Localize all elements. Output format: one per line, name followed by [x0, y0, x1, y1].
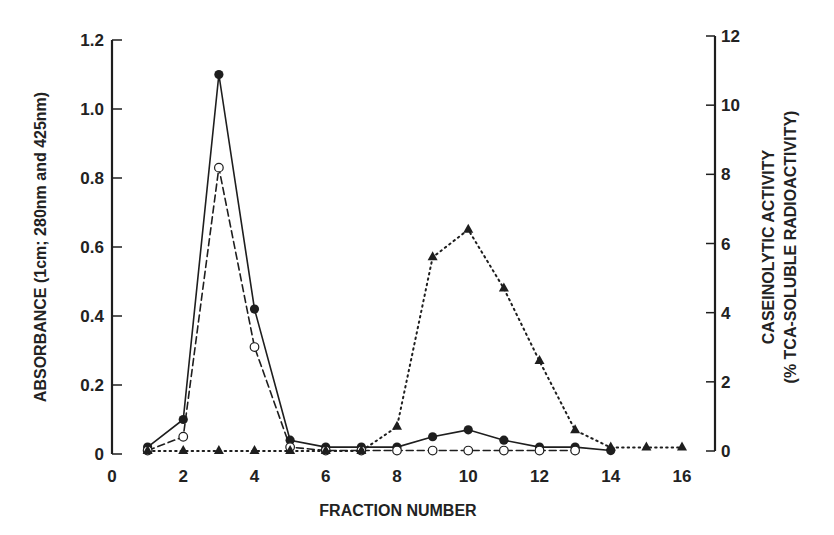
x-axis-tick-label: 12: [530, 467, 549, 486]
left-axis-tick-label: 0.4: [80, 307, 104, 326]
right-axis-tick-label: 12: [721, 27, 740, 46]
x-axis-tick-label: 16: [673, 467, 692, 486]
left-axis-tick-label: 1.2: [80, 31, 104, 50]
open-circle-marker: [535, 446, 544, 455]
filled-triangle-marker: [250, 445, 260, 454]
left-axis-tick-label: 1.0: [80, 100, 104, 119]
open-circle-marker: [250, 343, 259, 352]
filled-triangle-marker: [392, 421, 402, 430]
right-axis-tick-label: 8: [721, 165, 730, 184]
filled-circle-marker: [464, 425, 473, 434]
open-circle-marker: [215, 163, 224, 172]
right-axis-tick-label: 2: [721, 373, 730, 392]
x-axis-tick-label: 4: [250, 467, 260, 486]
filled-triangle-marker: [428, 251, 438, 260]
series-line: [148, 168, 576, 451]
left-axis-tick-label: 0.2: [80, 376, 104, 395]
open-circle-marker: [571, 446, 580, 455]
x-axis-title: FRACTION NUMBER: [319, 502, 477, 519]
x-axis-tick-label: 0: [107, 467, 116, 486]
axes: 00.20.40.60.81.01.2024681012024681012141…: [80, 27, 740, 486]
y-axis-title: ABSORBANCE (1cm; 280nm and 425nm): [32, 92, 49, 402]
right-axis-tick-label: 10: [721, 96, 740, 115]
x-axis-tick-label: 2: [179, 467, 188, 486]
filled-triangle-marker: [499, 282, 509, 291]
open-circle-marker: [464, 446, 473, 455]
open-circle-marker: [500, 446, 509, 455]
left-axis-tick-label: 0.6: [80, 238, 104, 257]
series-line: [148, 230, 682, 451]
chart-canvas: 00.20.40.60.81.01.2024681012024681012141…: [0, 0, 834, 535]
filled-circle-marker: [428, 432, 437, 441]
x-axis-tick-label: 14: [601, 467, 620, 486]
y2-axis-title-line2: (% TCA-SOLUBLE RADIOACTIVITY): [782, 111, 799, 384]
y2-axis-title-line1: CASEINOLYTIC ACTIVITY: [760, 149, 777, 344]
left-axis-tick-label: 0.8: [80, 169, 104, 188]
filled-triangle-marker: [535, 355, 545, 364]
open-circle-marker: [428, 446, 437, 455]
filled-triangle-marker: [463, 224, 473, 233]
left-axis-tick-label: 0: [95, 445, 104, 464]
series-layer: [143, 70, 687, 455]
open-circle-marker: [179, 432, 188, 441]
filled-triangle-marker: [641, 442, 651, 451]
right-axis-tick-label: 4: [721, 304, 731, 323]
filled-circle-marker: [214, 70, 223, 79]
series-line: [148, 75, 611, 451]
filled-triangle-marker: [178, 445, 188, 454]
x-axis-tick-label: 8: [392, 467, 401, 486]
x-axis-tick-label: 10: [459, 467, 478, 486]
open-circle-marker: [393, 446, 402, 455]
filled-circle-marker: [250, 305, 259, 314]
filled-triangle-marker: [214, 445, 224, 454]
right-axis-tick-label: 0: [721, 442, 730, 461]
filled-triangle-marker: [677, 442, 687, 451]
filled-triangle-marker: [570, 424, 580, 433]
right-axis-tick-label: 6: [721, 235, 730, 254]
x-axis-tick-label: 6: [321, 467, 330, 486]
filled-circle-marker: [499, 436, 508, 445]
